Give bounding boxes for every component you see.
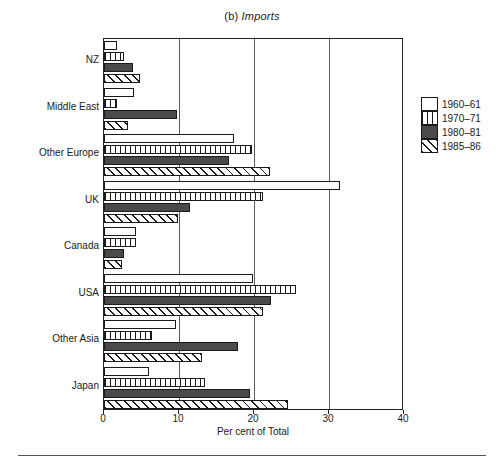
legend-item-1960–61: 1960–61 <box>421 97 499 111</box>
category-label-other-asia: Other Asia <box>4 333 99 344</box>
legend-swatch-diagonal-hatch <box>421 139 438 153</box>
bar-japan-1970–71 <box>104 378 205 387</box>
category-label-uk: UK <box>4 194 99 205</box>
gridline-30 <box>329 39 330 409</box>
bar-other-europe-1985–86 <box>104 167 270 176</box>
bar-other-asia-1985–86 <box>104 353 202 362</box>
bar-usa-1980–81 <box>104 296 271 305</box>
footer-divider <box>18 455 486 456</box>
legend-label-1980–81: 1980–81 <box>442 127 481 138</box>
category-label-usa: USA <box>4 287 99 298</box>
x-tick-label-0: 0 <box>100 413 106 424</box>
chart-title-prefix: (b) <box>224 10 238 22</box>
bar-other-asia-1970–71 <box>104 331 152 340</box>
bar-japan-1960–61 <box>104 367 149 376</box>
bar-uk-1985–86 <box>104 214 178 223</box>
bar-canada-1970–71 <box>104 238 136 247</box>
x-tick-label-20: 20 <box>247 413 258 424</box>
category-label-nz: NZ <box>4 54 99 65</box>
legend-label-1970–71: 1970–71 <box>442 113 481 124</box>
x-axis-title: Per cent of Total <box>103 426 403 437</box>
bar-nz-1960–61 <box>104 41 117 50</box>
plot-area <box>103 38 403 410</box>
bar-other-europe-1970–71 <box>104 145 252 154</box>
bar-middle-east-1980–81 <box>104 110 177 119</box>
bar-uk-1960–61 <box>104 181 340 190</box>
bar-other-asia-1960–61 <box>104 320 176 329</box>
bar-uk-1980–81 <box>104 203 190 212</box>
chart-title-italic: Imports <box>242 10 280 22</box>
legend-swatch-white <box>421 97 438 111</box>
legend-item-1970–71: 1970–71 <box>421 111 499 125</box>
bar-nz-1985–86 <box>104 74 140 83</box>
bar-nz-1970–71 <box>104 52 124 61</box>
bar-other-europe-1980–81 <box>104 156 229 165</box>
bar-usa-1985–86 <box>104 307 263 316</box>
bar-middle-east-1960–61 <box>104 88 134 97</box>
legend-swatch-vertical-stripes <box>421 111 438 125</box>
category-label-canada: Canada <box>4 240 99 251</box>
bar-japan-1985–86 <box>104 400 288 409</box>
x-tick-label-10: 10 <box>172 413 183 424</box>
category-axis-labels: NZMiddle EastOther EuropeUKCanadaUSAOthe… <box>0 38 99 410</box>
legend-label-1985–86: 1985–86 <box>442 141 481 152</box>
bar-usa-1960–61 <box>104 274 253 283</box>
bar-middle-east-1985–86 <box>104 121 128 130</box>
legend-swatch-solid-dark <box>421 125 438 139</box>
bar-canada-1980–81 <box>104 249 124 258</box>
bar-canada-1985–86 <box>104 260 122 269</box>
legend-label-1960–61: 1960–61 <box>442 99 481 110</box>
x-tick-label-30: 30 <box>322 413 333 424</box>
bar-middle-east-1970–71 <box>104 99 117 108</box>
bar-usa-1970–71 <box>104 285 296 294</box>
legend-item-1980–81: 1980–81 <box>421 125 499 139</box>
bar-other-asia-1980–81 <box>104 342 238 351</box>
chart-legend: 1960–611970–711980–811985–86 <box>421 97 499 153</box>
bar-canada-1960–61 <box>104 227 136 236</box>
chart-title: (b) Imports <box>0 10 504 22</box>
bar-nz-1980–81 <box>104 63 133 72</box>
legend-item-1985–86: 1985–86 <box>421 139 499 153</box>
category-label-japan: Japan <box>4 380 99 391</box>
category-label-middle-east: Middle East <box>4 101 99 112</box>
category-label-other-europe: Other Europe <box>4 147 99 158</box>
bar-uk-1970–71 <box>104 192 263 201</box>
gridline-20 <box>254 39 255 409</box>
bar-other-europe-1960–61 <box>104 134 234 143</box>
x-tick-label-40: 40 <box>397 413 408 424</box>
bar-japan-1980–81 <box>104 389 250 398</box>
